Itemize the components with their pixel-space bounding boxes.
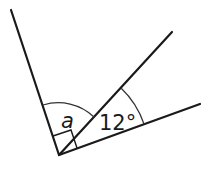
middle-ray xyxy=(59,32,172,155)
angle-12-label: 12° xyxy=(99,111,136,135)
left-ray xyxy=(11,10,59,155)
angle-diagram: a 12° xyxy=(0,0,211,178)
angle-a-label: a xyxy=(61,109,74,133)
